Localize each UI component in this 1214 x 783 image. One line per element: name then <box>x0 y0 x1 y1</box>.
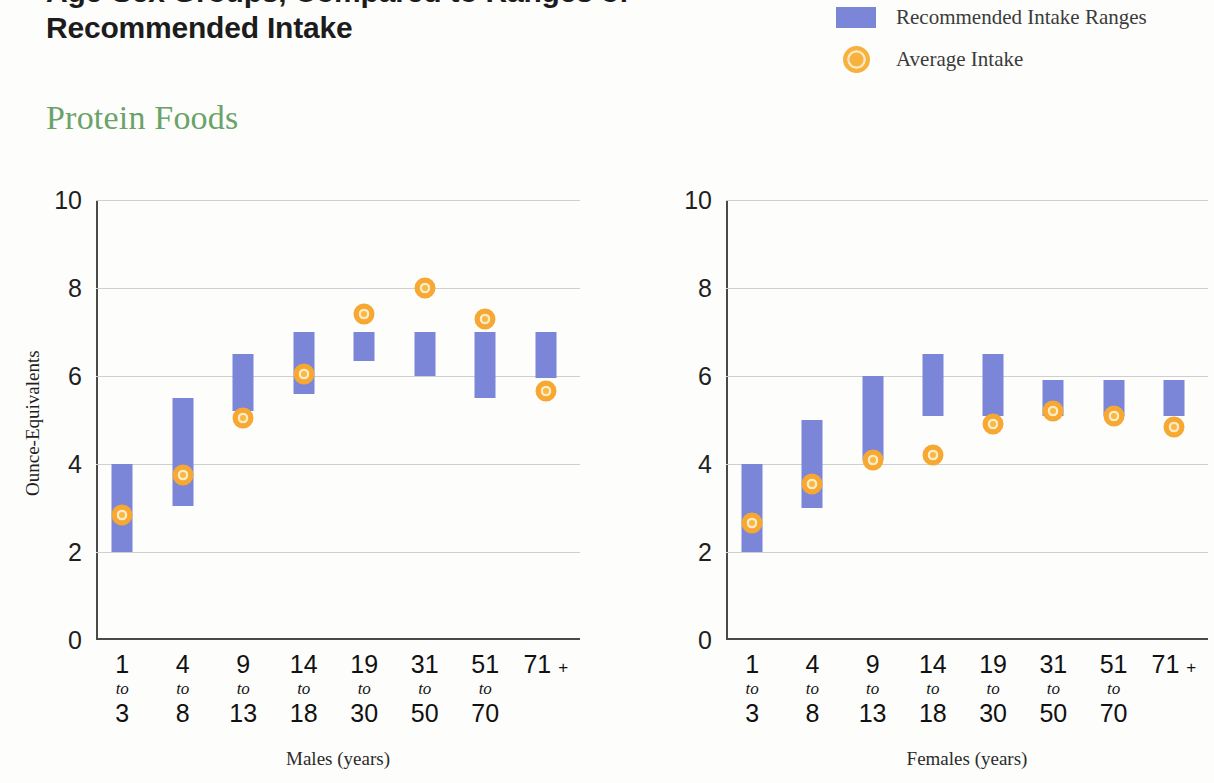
average-intake-dot <box>535 381 556 402</box>
x-axis-categories-males: 1to34to89to1314to1819to3031to5051to7071 … <box>96 640 580 732</box>
y-tick-label-males-10: 10 <box>54 186 82 215</box>
range-bar <box>1163 380 1184 415</box>
page-title-line1: Age-Sex Groups, Compared to Ranges of <box>46 0 806 10</box>
x-category-label: 9to13 <box>213 650 273 728</box>
range-bar <box>535 332 556 378</box>
x-category-label: 14to18 <box>274 650 334 728</box>
y-tick-label-females-2: 2 <box>698 538 712 567</box>
y-tick-label-females-10: 10 <box>684 186 712 215</box>
gridline-males-10 <box>96 200 580 201</box>
gridline-females-4 <box>726 464 1208 465</box>
x-category-label: 51to70 <box>455 650 515 728</box>
range-bar <box>414 332 435 376</box>
y-tick-label-males-8: 8 <box>68 274 82 303</box>
range-bar <box>802 420 823 508</box>
page-title: Age-Sex Groups, Compared to Ranges of Re… <box>46 0 806 46</box>
x-axis-title-males: Males (years) <box>96 748 580 770</box>
average-intake-dot <box>862 449 883 470</box>
legend-label-average: Average Intake <box>896 47 1023 72</box>
y-tick-label-males-6: 6 <box>68 362 82 391</box>
gridline-males-2 <box>96 552 580 553</box>
x-category-label: 1to3 <box>92 650 152 728</box>
range-bar <box>233 354 254 411</box>
gridline-males-8 <box>96 288 580 289</box>
chart-page: Age-Sex Groups, Compared to Ranges of Re… <box>0 0 1214 783</box>
gridline-males-4 <box>96 464 580 465</box>
y-tick-label-males-0: 0 <box>68 626 82 655</box>
average-intake-dot <box>742 513 763 534</box>
x-category-label: 71 + <box>516 650 576 682</box>
plot-area-females: 1to34to89to1314to1819to3031to5051to7071 … <box>726 200 1208 640</box>
y-tick-label-males-2: 2 <box>68 538 82 567</box>
y-tick-label-females-8: 8 <box>698 274 712 303</box>
x-category-label: 31to50 <box>395 650 455 728</box>
gridline-males-0 <box>96 640 580 641</box>
chart-legend: Recommended Intake Ranges Average Intake <box>836 4 1147 72</box>
x-category-label: 71 + <box>1144 650 1204 682</box>
range-bar <box>983 354 1004 416</box>
average-intake-dot <box>802 473 823 494</box>
y-tick-label-males-4: 4 <box>68 450 82 479</box>
x-category-label: 19to30 <box>963 650 1023 728</box>
gridline-females-8 <box>726 288 1208 289</box>
y-axis-line-females <box>726 200 728 640</box>
x-axis-categories-females: 1to34to89to1314to1819to3031to5051to7071 … <box>726 640 1208 732</box>
x-category-label: 4to8 <box>782 650 842 728</box>
range-bar <box>862 376 883 460</box>
legend-item-ranges: Recommended Intake Ranges <box>836 4 1147 30</box>
gridline-females-2 <box>726 552 1208 553</box>
y-axis-title-males: Ounce-Equivalents <box>22 350 44 496</box>
average-intake-dot <box>112 504 133 525</box>
range-bar <box>922 354 943 416</box>
gridline-females-6 <box>726 376 1208 377</box>
x-category-label: 4to8 <box>153 650 213 728</box>
average-intake-dot <box>1103 405 1124 426</box>
legend-label-ranges: Recommended Intake Ranges <box>896 5 1147 30</box>
average-intake-dot <box>233 407 254 428</box>
range-bar <box>475 332 496 398</box>
y-tick-label-females-6: 6 <box>698 362 712 391</box>
legend-item-average: Average Intake <box>836 46 1147 72</box>
plot-area-males: 1to34to89to1314to1819to3031to5051to7071 … <box>96 200 580 640</box>
x-category-label: 19to30 <box>334 650 394 728</box>
range-bar <box>172 398 193 506</box>
average-intake-dot <box>172 465 193 486</box>
page-subtitle: Protein Foods <box>46 99 238 137</box>
average-intake-dot <box>1163 416 1184 437</box>
x-category-label: 31to50 <box>1023 650 1083 728</box>
average-intake-dot <box>475 308 496 329</box>
y-tick-label-females-0: 0 <box>698 626 712 655</box>
average-intake-dot <box>922 445 943 466</box>
y-tick-label-females-4: 4 <box>698 450 712 479</box>
gridline-females-0 <box>726 640 1208 641</box>
average-intake-dot <box>354 304 375 325</box>
average-intake-dot <box>983 414 1004 435</box>
range-bar <box>742 464 763 552</box>
gridline-males-6 <box>96 376 580 377</box>
average-intake-dot <box>414 278 435 299</box>
y-axis-line-males <box>96 200 98 640</box>
x-category-label: 51to70 <box>1084 650 1144 728</box>
page-title-line2: Recommended Intake <box>46 10 806 46</box>
average-intake-dot <box>293 363 314 384</box>
average-intake-dot <box>1043 401 1064 422</box>
range-bar <box>354 332 375 361</box>
x-category-label: 14to18 <box>903 650 963 728</box>
blue-square-swatch-icon <box>836 7 876 28</box>
x-axis-title-females: Females (years) <box>726 748 1208 770</box>
x-category-label: 9to13 <box>843 650 903 728</box>
gridline-females-10 <box>726 200 1208 201</box>
orange-circle-marker-icon <box>836 46 876 73</box>
x-category-label: 1to3 <box>722 650 782 728</box>
